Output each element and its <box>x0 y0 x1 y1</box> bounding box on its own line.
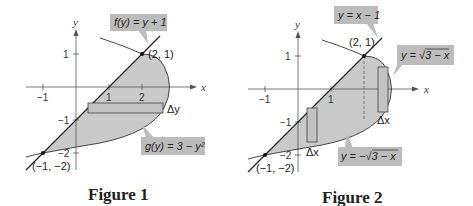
representative-rectangle-figure-1 <box>88 103 163 113</box>
equation-line: y = x − 1 <box>337 9 380 21</box>
point-neg1-neg2-figure-1 <box>41 151 45 155</box>
delta-x-label-left: Δx <box>306 146 319 158</box>
x-tick-1: 1 <box>106 92 112 103</box>
equation-g: g(y) = 3 − y² <box>145 140 205 152</box>
point-2-1-figure-2 <box>362 54 366 58</box>
point-2-1-figure-1 <box>140 52 144 56</box>
equation-upper: y = √3 − x <box>400 49 450 61</box>
shaded-region-figure-2 <box>265 56 392 155</box>
x-tick-neg1: −1 <box>259 94 271 105</box>
y-tick-1: 1 <box>63 49 69 60</box>
y-axis-arrow-icon <box>74 29 79 36</box>
delta-y-label: Δy <box>167 103 180 115</box>
x-axis-label: x <box>423 83 429 95</box>
figure-1: x y −1 1 2 1 −1 −2 Δy (2, 1) (−1, −2) f(… <box>26 14 206 172</box>
y-axis-label: y <box>72 16 78 28</box>
point-neg1-neg2-figure-2 <box>263 153 267 157</box>
x-axis-arrow-icon <box>412 87 419 92</box>
figure-1-caption: Figure 1 <box>88 185 149 205</box>
representative-rectangle-right <box>378 67 388 112</box>
x-tick-1: 1 <box>328 94 334 105</box>
x-axis-label: x <box>200 81 206 93</box>
representative-rectangle-left <box>307 108 317 142</box>
figure-2: x y −1 1 1 −1 −2 Δx Δx (2, 1) (−1, −2) y… <box>248 6 454 174</box>
y-tick-1: 1 <box>285 51 291 62</box>
equation-f: f(y) = y + 1 <box>114 16 167 28</box>
x-tick-2: 2 <box>139 92 145 103</box>
x-tick-neg1: −1 <box>37 92 49 103</box>
x-axis-arrow-icon <box>190 85 197 90</box>
y-tick-neg1: −1 <box>58 115 70 126</box>
y-axis-arrow-icon <box>296 31 301 38</box>
delta-x-label-right: Δx <box>377 114 390 126</box>
point-label-2-1: (2, 1) <box>349 36 375 48</box>
y-axis-label: y <box>294 18 300 30</box>
equation-lower: y = −√3 − x <box>340 150 396 162</box>
y-tick-neg1: −1 <box>280 117 292 128</box>
point-label-neg1-neg2: (−1, −2) <box>32 160 71 172</box>
figure-2-caption: Figure 2 <box>322 188 383 206</box>
point-label-neg1-neg2: (−1, −2) <box>256 162 295 174</box>
point-label-2-1: (2, 1) <box>148 48 174 60</box>
